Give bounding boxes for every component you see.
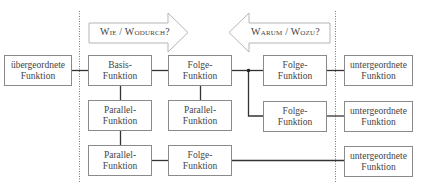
- superior-function-box: übergeordneteFunktion: [4, 55, 72, 86]
- follow-function-box-r2c3: Folge-Funktion: [263, 101, 327, 132]
- box-line: Folge-: [183, 60, 217, 71]
- box-line: Parallel-: [103, 150, 137, 161]
- follow-function-box-r1c2: Folge-Funktion: [168, 55, 232, 86]
- box-line: Folge-: [278, 106, 312, 117]
- box-line: Funktion: [278, 71, 312, 82]
- box-line: Folge-: [183, 150, 217, 161]
- box-line: Funktion: [350, 162, 407, 173]
- box-line: Funktion: [11, 71, 65, 82]
- box-line: Funktion: [350, 71, 407, 82]
- box-line: untergeordnete: [350, 151, 407, 162]
- box-line: Funktion: [278, 117, 312, 128]
- box-line: untergeordnete: [350, 106, 407, 117]
- box-line: übergeordnete: [11, 60, 65, 71]
- backward-arrow-label: Warum / Wozu?: [251, 26, 320, 37]
- box-line: Funktion: [103, 161, 137, 172]
- basis-function-box: Basis-Funktion: [88, 55, 152, 86]
- box-line: Funktion: [183, 71, 217, 82]
- box-line: untergeordnete: [350, 60, 407, 71]
- subordinate-function-box-r3: untergeordneteFunktion: [344, 146, 413, 177]
- box-line: Funktion: [350, 117, 407, 128]
- junction-dot: [247, 69, 251, 73]
- box-line: Parallel-: [183, 105, 217, 116]
- parallel-function-box-r3c1: Parallel-Funktion: [88, 145, 152, 176]
- box-line: Funktion: [103, 116, 137, 127]
- follow-function-box-r3c2: Folge-Funktion: [168, 145, 232, 176]
- box-line: Funktion: [183, 116, 217, 127]
- subordinate-function-box-r1: untergeordneteFunktion: [344, 55, 413, 86]
- box-line: Funktion: [103, 71, 137, 82]
- parallel-function-box-r2c2: Parallel-Funktion: [168, 100, 232, 131]
- box-line: Funktion: [183, 161, 217, 172]
- follow-function-box-r1c3: Folge-Funktion: [263, 55, 327, 86]
- box-line: Parallel-: [103, 105, 137, 116]
- box-line: Basis-: [103, 60, 137, 71]
- subordinate-function-box-r2: untergeordneteFunktion: [344, 101, 413, 132]
- parallel-function-box-r2c1: Parallel-Funktion: [88, 100, 152, 131]
- forward-arrow-label: Wie / Wodurch?: [100, 26, 170, 37]
- box-line: Folge-: [278, 60, 312, 71]
